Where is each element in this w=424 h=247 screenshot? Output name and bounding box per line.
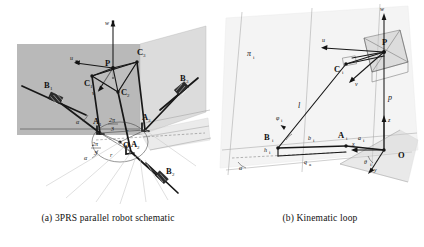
label-a2-sub: 2 xyxy=(137,145,140,150)
frame-tick-u xyxy=(76,61,78,63)
axis-w-label: w xyxy=(105,20,109,26)
label-link-b: b xyxy=(308,135,311,141)
frame-tick-w xyxy=(112,21,114,23)
angle-label-lower: 2π 3 xyxy=(91,141,101,156)
caption-a-text: (a) 3PRS parallel robot schematic xyxy=(41,213,174,223)
label-b-b: B xyxy=(264,132,270,142)
label-actuator-q: q xyxy=(304,159,307,165)
panel-b-drawing: π i w u v P C i l xyxy=(212,0,424,210)
angle-upper-numerator: 2π xyxy=(109,117,116,123)
label-link-a: a xyxy=(358,135,361,141)
perspective-ray-3 xyxy=(96,152,131,202)
point-p xyxy=(111,66,115,70)
caption-panel-b: (b) Kinematic loop xyxy=(216,213,424,243)
label-alpha-2: α xyxy=(84,155,88,161)
panel-a-drawing: w u v P C 1 C 2 C 3 xyxy=(0,0,212,210)
perspective-ray-1 xyxy=(46,142,120,186)
panel-b-kinematic-loop: π i w u v P C i l xyxy=(212,0,424,210)
axis-w-label-b: w xyxy=(380,6,384,12)
perspective-ray-4 xyxy=(120,156,136,204)
label-height-h: h xyxy=(264,147,267,153)
angle-upper-denominator: 3 xyxy=(110,126,114,132)
label-o-b: O xyxy=(398,150,405,160)
label-b2-sub: 2 xyxy=(172,172,175,177)
label-actuator-q-sub: a xyxy=(309,162,312,167)
caption-b-text: (b) Kinematic loop xyxy=(283,213,358,223)
label-p-b: P xyxy=(382,37,387,47)
caption-panel-a: (a) 3PRS parallel robot schematic xyxy=(0,213,216,243)
label-a-b: A xyxy=(338,130,345,140)
axis-u-label: u xyxy=(70,55,73,61)
panel-a-3prs-schematic: w u v P C 1 C 2 C 3 xyxy=(0,0,212,210)
angle-lower-numerator: 2π xyxy=(92,141,99,147)
axis-v-label-b: v xyxy=(355,81,358,87)
label-vector-p: p xyxy=(387,93,392,102)
axis-y-label-b: y xyxy=(373,167,377,173)
label-p: P xyxy=(105,58,110,68)
angle-lower-denominator: 3 xyxy=(93,150,97,156)
axis-u-label-b: u xyxy=(322,37,325,43)
figure-container: w u v P C 1 C 2 C 3 xyxy=(0,0,424,247)
label-theta: θ xyxy=(364,159,367,165)
label-o: O xyxy=(123,140,130,150)
